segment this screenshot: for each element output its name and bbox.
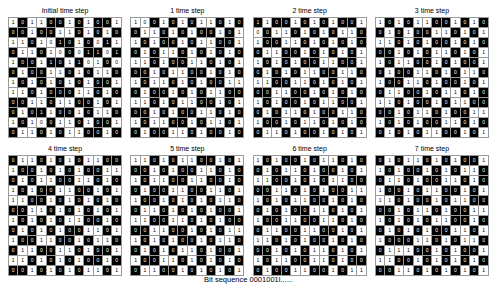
matrix-cell: 1	[103, 216, 112, 226]
matrix-cell: 0	[451, 186, 460, 196]
matrix-cell: 0	[460, 206, 469, 216]
matrix-row: 101001101001	[9, 118, 122, 128]
matrix-cell: 1	[300, 226, 309, 236]
matrix-cell: 1	[441, 176, 450, 186]
matrix-cell: 1	[479, 78, 489, 88]
matrix-cell: 1	[423, 128, 432, 138]
matrix-cell: 1	[159, 156, 168, 166]
matrix-cell: 0	[37, 68, 46, 78]
matrix-cell: 0	[470, 98, 479, 108]
matrix-cell: 0	[328, 48, 337, 58]
matrix-cell: 1	[479, 58, 489, 68]
matrix-cell: 0	[451, 166, 460, 176]
matrix-cell: 1	[432, 196, 441, 206]
matrix-cell: 0	[168, 246, 177, 256]
matrix-cell: 0	[291, 236, 300, 246]
matrix-cell: 1	[253, 196, 262, 206]
matrix-cell: 0	[291, 28, 300, 38]
matrix-cell: 1	[441, 108, 450, 118]
matrix-cell: 1	[27, 128, 36, 138]
matrix-cell: 1	[432, 48, 441, 58]
matrix-cell: 0	[319, 176, 328, 186]
matrix-cell: 0	[159, 206, 168, 216]
matrix-cell: 0	[131, 226, 140, 236]
matrix-cell: 1	[394, 176, 403, 186]
matrix-row: 100110010110	[9, 236, 122, 246]
matrix-cell: 1	[215, 28, 224, 38]
matrix-cell: 0	[338, 18, 347, 28]
matrix-cell: 0	[84, 68, 93, 78]
matrix-cell: 0	[404, 206, 413, 216]
matrix-cell: 0	[93, 216, 102, 226]
matrix-cell: 0	[168, 78, 177, 88]
matrix-cell: 0	[197, 98, 206, 108]
matrix-cell: 1	[74, 128, 83, 138]
matrix-cell: 0	[263, 256, 272, 266]
matrix-cell: 1	[168, 186, 177, 196]
matrix-cell: 1	[328, 18, 337, 28]
matrix-cell: 0	[451, 48, 460, 58]
matrix-cell: 0	[451, 28, 460, 38]
matrix-cell: 0	[451, 236, 460, 246]
matrix-cell: 1	[272, 246, 281, 256]
matrix-cell: 1	[470, 88, 479, 98]
matrix-row: 100101010011	[9, 166, 122, 176]
matrix-cell: 0	[441, 38, 450, 48]
matrix-cell: 1	[9, 78, 18, 88]
matrix-cell: 1	[9, 256, 18, 266]
matrix-cell: 1	[27, 266, 36, 276]
matrix-cell: 1	[197, 196, 206, 206]
matrix-cell: 1	[159, 196, 168, 206]
matrix-cell: 0	[460, 156, 469, 166]
matrix-cell: 0	[310, 128, 319, 138]
matrix-cell: 0	[225, 266, 234, 276]
matrix-cell: 1	[197, 236, 206, 246]
matrix-cell: 1	[37, 98, 46, 108]
matrix-cell: 0	[272, 18, 281, 28]
matrix-cell: 0	[150, 98, 159, 108]
matrix-cell: 0	[291, 88, 300, 98]
matrix-cell: 0	[281, 266, 290, 276]
matrix-cell: 1	[385, 256, 394, 266]
cell-matrix: 1001010110100110101001011010010110010101…	[130, 17, 244, 138]
matrix-cell: 1	[187, 48, 196, 58]
matrix-cell: 1	[253, 256, 262, 266]
matrix-cell: 0	[56, 266, 65, 276]
matrix-cell: 1	[281, 206, 290, 216]
matrix-cell: 0	[375, 88, 384, 98]
matrix-cell: 1	[394, 166, 403, 176]
matrix-row: 010110100110	[253, 108, 366, 118]
matrix-cell: 0	[375, 266, 384, 276]
matrix-cell: 1	[432, 58, 441, 68]
matrix-cell: 1	[168, 68, 177, 78]
matrix-cell: 0	[197, 226, 206, 236]
matrix-cell: 1	[385, 88, 394, 98]
matrix-cell: 1	[206, 18, 215, 28]
matrix-cell: 0	[253, 68, 262, 78]
matrix-cell: 1	[281, 28, 290, 38]
matrix-cell: 1	[225, 128, 234, 138]
matrix-cell: 0	[272, 236, 281, 246]
matrix-cell: 1	[451, 118, 460, 128]
matrix-cell: 1	[253, 216, 262, 226]
matrix-cell: 1	[56, 98, 65, 108]
matrix-row: 011010100101	[131, 28, 244, 38]
matrix-cell: 0	[300, 206, 309, 216]
matrix-cell: 0	[46, 186, 55, 196]
matrix-cell: 0	[159, 88, 168, 98]
matrix-cell: 1	[168, 108, 177, 118]
matrix-cell: 0	[84, 38, 93, 48]
matrix-cell: 1	[131, 38, 140, 48]
matrix-cell: 0	[103, 58, 112, 68]
matrix-cell: 0	[291, 68, 300, 78]
figure-caption: Bit sequence 0001001l......	[0, 275, 497, 284]
matrix-cell: 0	[328, 166, 337, 176]
matrix-cell: 0	[140, 166, 149, 176]
matrix-cell: 0	[319, 196, 328, 206]
matrix-cell: 1	[375, 58, 384, 68]
matrix-cell: 1	[187, 88, 196, 98]
matrix-cell: 1	[253, 98, 262, 108]
matrix-cell: 1	[112, 78, 122, 88]
matrix-cell: 1	[253, 156, 262, 166]
matrix-cell: 0	[338, 38, 347, 48]
